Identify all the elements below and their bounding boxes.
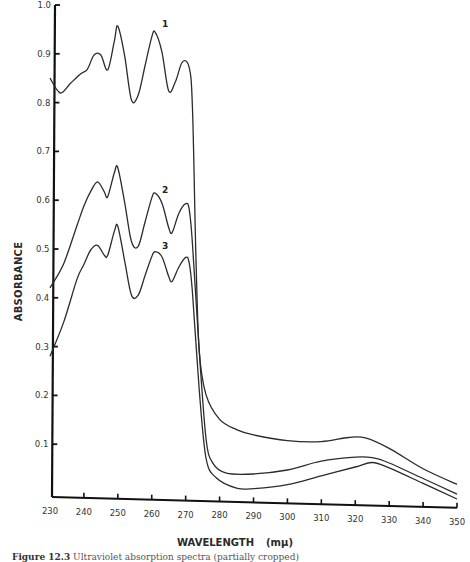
series-1-line [50,26,457,484]
y-tick-label: 0.8 [37,98,51,108]
x-tick-label: 320 [347,514,363,524]
series-2-line [50,166,457,494]
x-tick-label: 340 [415,516,431,526]
y-tick-label: 1.0 [37,0,51,10]
y-tick-label: 0.1 [35,439,49,449]
x-tick-label: 290 [245,511,261,521]
y-axis-line [52,5,55,497]
y-tick-label: 0.5 [36,244,50,254]
chart-tick-labels: 0.10.20.30.40.50.60.70.80.91.02302402502… [35,0,465,527]
x-tick-label: 330 [381,515,397,525]
x-axis-line [52,497,457,508]
y-tick-label: 0.9 [37,49,51,59]
x-tick-label: 240 [76,507,92,517]
series-3-line [50,224,457,499]
chart-axes [52,5,457,508]
y-tick-label: 0.4 [36,293,50,303]
x-tick-label: 310 [313,513,329,523]
x-axis-title: WAVELENGTH [177,537,254,548]
x-tick-label: 300 [279,512,295,522]
x-tick-label: 230 [42,506,58,516]
x-tick-label: 280 [211,510,227,520]
series-1-label: 1 [162,19,168,29]
y-tick-label: 0.6 [36,195,50,205]
x-axis-unit: (mμ) [266,537,293,548]
y-tick-label: 0.2 [35,390,49,400]
figure-caption: Figure 12.3 Ultraviolet absorption spect… [12,552,299,562]
absorbance-chart: 123 0.10.20.30.40.50.60.70.80.91.0230240… [0,0,470,535]
chart-series: 123 [50,19,457,499]
figure-number: Figure 12.3 [12,552,70,562]
y-tick-label: 0.7 [37,146,51,156]
x-tick-label: 270 [178,510,194,520]
y-tick-label: 0.3 [35,342,49,352]
x-tick-label: 260 [144,509,160,519]
x-tick-label: 250 [110,508,126,518]
y-axis-label: ABSORBANCE [13,242,24,322]
series-2-label: 2 [162,185,168,195]
x-axis-label: WAVELENGTH(mμ) [0,537,470,548]
x-tick-label: 350 [449,517,465,527]
figure-caption-text: Ultraviolet absorption spectra (partiall… [73,552,299,562]
series-3-label: 3 [162,241,168,251]
